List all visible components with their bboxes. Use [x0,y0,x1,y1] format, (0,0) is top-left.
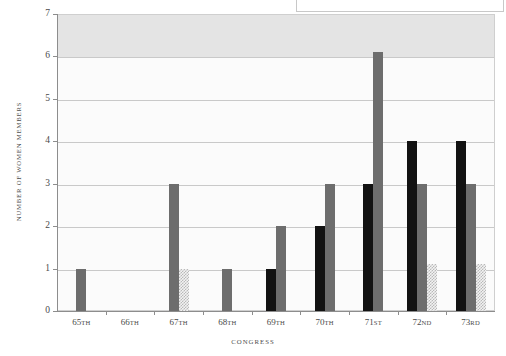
y-tick-4 [53,141,57,142]
x-label-suffix: ND [421,319,431,326]
x-label-suffix: TH [227,319,236,326]
bar-68TH-gray-series [222,269,232,311]
x-label-suffix: TH [324,319,333,326]
x-tick-8 [446,311,447,315]
y-tick-3 [53,184,57,185]
bar-69TH-gray-series [276,226,286,311]
x-label-suffix: TH [276,319,285,326]
x-label-suffix: TH [178,319,187,326]
y-tick-label-0: 0 [36,306,50,316]
x-tick-6 [349,311,350,315]
bar-71ST-black-series [363,184,373,311]
x-label-suffix: ST [374,319,382,326]
x-tick-4 [252,311,253,315]
bar-65TH-gray-series [76,269,86,311]
y-tick-label-3: 3 [36,179,50,189]
x-axis-title: CONGRESS [0,338,506,345]
figure-root: 0123456765TH66TH67TH68TH69TH70TH71ST72ND… [0,0,506,356]
x-label-suffix: TH [81,319,90,326]
x-label-number: 69 [267,317,276,327]
y-axis-title: NUMBER OF WOMEN MEMBERS [15,82,22,242]
x-tick-label-73RD: 73RD [441,318,501,327]
y-tick-label-6: 6 [36,51,50,61]
x-tick-7 [398,311,399,315]
x-tick-2 [154,311,155,315]
y-tick-1 [53,269,57,270]
bar-73RD-black-series [456,141,466,311]
x-label-number: 73 [461,317,470,327]
bars-layer [58,15,494,311]
bar-69TH-black-series [266,269,276,311]
x-label-number: 66 [121,317,130,327]
x-label-suffix: RD [470,319,480,326]
bar-73RD-hatched-series [476,264,486,311]
x-label-number: 71 [365,317,374,327]
x-label-number: 68 [218,317,227,327]
x-tick-1 [106,311,107,315]
bar-73RD-gray-series [466,184,476,311]
y-tick-label-5: 5 [36,94,50,104]
bar-67TH-gray-series [169,184,179,311]
y-tick-2 [53,226,57,227]
x-axis-line [57,311,495,312]
y-tick-label-4: 4 [36,136,50,146]
x-label-suffix: TH [130,319,139,326]
y-tick-label-1: 1 [36,264,50,274]
x-tick-3 [203,311,204,315]
bar-67TH-hatched-series [179,269,189,311]
y-tick-6 [53,56,57,57]
bar-70TH-gray-series [325,184,335,311]
y-tick-0 [53,311,57,312]
y-tick-5 [53,99,57,100]
bar-72ND-black-series [407,141,417,311]
x-label-number: 65 [72,317,81,327]
legend-box [296,0,504,12]
bar-72ND-hatched-series [427,264,437,311]
bar-71ST-gray-series [373,52,383,311]
y-tick-7 [53,14,57,15]
bar-72ND-gray-series [417,184,427,311]
x-tick-5 [300,311,301,315]
y-tick-label-2: 2 [36,221,50,231]
bar-70TH-black-series [315,226,325,311]
y-tick-label-7: 7 [36,9,50,19]
